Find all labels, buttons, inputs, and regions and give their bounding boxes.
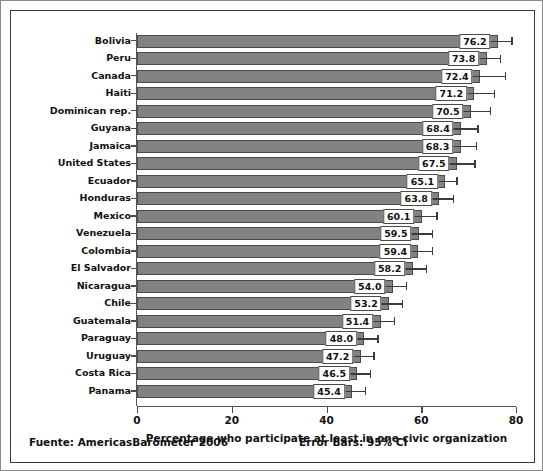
x-axis-tick-label: 0 <box>133 414 140 426</box>
category-label: Colombia <box>11 245 131 256</box>
category-label: Guatemala <box>11 315 131 326</box>
category-label: Mexico <box>11 210 131 221</box>
error-bar-cap-high <box>406 282 407 290</box>
x-axis-tick <box>327 407 328 413</box>
category-label: Jamaica <box>11 140 131 151</box>
bar <box>137 210 422 223</box>
bar-row: 71.2 <box>137 86 516 102</box>
error-bar-cap-high <box>456 177 457 185</box>
x-axis-ticks: 020406080 <box>137 407 516 431</box>
bar-row: 72.4 <box>137 68 516 84</box>
y-axis-tick <box>131 355 136 356</box>
category-label: Bolivia <box>11 35 131 46</box>
y-axis-tick <box>131 163 136 164</box>
bars-plot-area: 76.273.872.471.270.568.468.367.565.163.8… <box>137 33 516 401</box>
bar <box>137 122 461 135</box>
footer-error-bars-label: Error Bars: 95% CI <box>299 436 407 448</box>
category-label: Dominican rep. <box>11 105 131 116</box>
category-label: Chile <box>11 297 131 308</box>
bar-value-label: 67.5 <box>418 156 449 171</box>
bar-row: 67.5 <box>137 156 516 172</box>
bar-row: 70.5 <box>137 103 516 119</box>
error-bar-cap-high <box>394 317 395 325</box>
y-axis-tick <box>131 93 136 94</box>
category-label: Honduras <box>11 192 131 203</box>
error-bar-cap-high <box>426 265 427 273</box>
category-label: Canada <box>11 70 131 81</box>
bar-row: 60.1 <box>137 208 516 224</box>
bar <box>137 70 480 83</box>
bar-row: 47.2 <box>137 348 516 364</box>
bar-row: 59.4 <box>137 243 516 259</box>
category-label: Peru <box>11 52 131 63</box>
bar-row: 58.2 <box>137 261 516 277</box>
error-bar-cap-high <box>432 247 433 255</box>
bar-row: 63.8 <box>137 191 516 207</box>
bar <box>137 140 461 153</box>
bar <box>137 157 457 170</box>
bar-value-label: 68.4 <box>422 121 453 136</box>
y-axis-tick <box>131 250 136 251</box>
category-label: Guyana <box>11 122 131 133</box>
chart-figure: BoliviaPeruCanadaHaitiDominican rep.Guya… <box>0 0 543 471</box>
y-axis-tick <box>131 320 136 321</box>
bar-value-label: 76.2 <box>459 34 490 49</box>
y-axis-tick <box>131 145 136 146</box>
bar-value-label: 58.2 <box>374 261 405 276</box>
bar <box>137 245 418 258</box>
bar-row: 53.2 <box>137 296 516 312</box>
x-axis-tick-label: 80 <box>509 414 524 426</box>
y-axis-tick <box>131 58 136 59</box>
error-bar-cap-high <box>402 300 403 308</box>
error-bar-cap-high <box>505 72 506 80</box>
footer-source-label: Fuente: AmericasBarometer 2006 <box>29 436 228 448</box>
category-label: United States <box>11 157 131 168</box>
chart-plot-frame: BoliviaPeruCanadaHaitiDominican rep.Guya… <box>10 10 535 463</box>
error-bar-cap-high <box>474 160 475 168</box>
y-axis-tick <box>131 198 136 199</box>
y-axis-tick <box>131 128 136 129</box>
error-bar-cap-high <box>500 55 501 63</box>
error-bar-cap-high <box>365 387 366 395</box>
y-axis-tick <box>131 110 136 111</box>
bar-value-label: 60.1 <box>383 209 414 224</box>
bar <box>137 227 419 240</box>
error-bar-cap-high <box>373 352 374 360</box>
y-axis-tick <box>131 268 136 269</box>
x-axis-tick <box>137 407 138 413</box>
category-label: Nicaragua <box>11 280 131 291</box>
bar-value-label: 45.4 <box>313 384 344 399</box>
y-axis-tick <box>131 390 136 391</box>
x-axis-tick-label: 60 <box>414 414 429 426</box>
x-axis-tick <box>232 407 233 413</box>
bar <box>137 105 471 118</box>
bar-value-label: 72.4 <box>441 69 472 84</box>
bar-row: 76.2 <box>137 33 516 49</box>
y-axis-tick <box>131 303 136 304</box>
bar-row: 54.0 <box>137 278 516 294</box>
bar-row: 48.0 <box>137 331 516 347</box>
bar <box>137 192 439 205</box>
category-label: Ecuador <box>11 175 131 186</box>
bar-value-label: 63.8 <box>401 191 432 206</box>
bar-row: 51.4 <box>137 313 516 329</box>
error-bar-cap-high <box>490 107 491 115</box>
bar-value-label: 47.2 <box>322 349 353 364</box>
y-axis-category-labels: BoliviaPeruCanadaHaitiDominican rep.Guya… <box>11 33 131 401</box>
bar-row: 73.8 <box>137 51 516 67</box>
error-bar-cap-high <box>476 142 477 150</box>
bar-row: 45.4 <box>137 383 516 399</box>
category-label: Paraguay <box>11 332 131 343</box>
x-axis-tick-label: 40 <box>319 414 334 426</box>
bar <box>137 262 413 275</box>
y-axis-tick <box>131 285 136 286</box>
bar-row: 59.5 <box>137 226 516 242</box>
x-axis-tick <box>421 407 422 413</box>
error-bar-cap-high <box>494 90 495 98</box>
error-bar-cap-high <box>436 212 437 220</box>
y-axis-tick <box>131 373 136 374</box>
category-label: Uruguay <box>11 350 131 361</box>
bar-value-label: 48.0 <box>326 331 357 346</box>
y-axis-tick <box>131 180 136 181</box>
error-bar-cap-high <box>370 370 371 378</box>
